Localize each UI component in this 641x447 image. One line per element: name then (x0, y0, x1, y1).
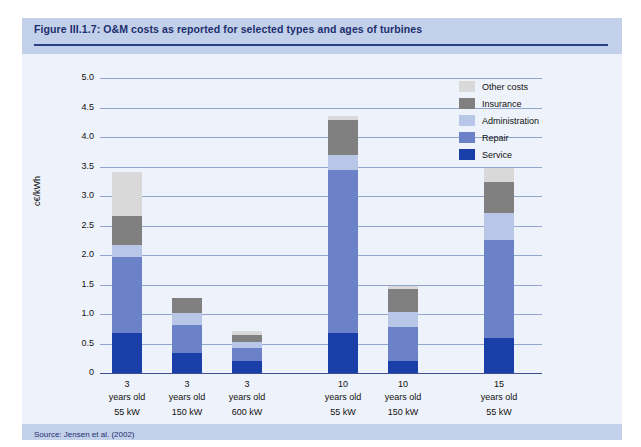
gridline (100, 226, 542, 227)
x-axis-line (100, 373, 542, 374)
x-axis-category-label: 3years old600 kW (209, 378, 285, 419)
x-label-age-unit: years old (365, 391, 441, 404)
y-axis-tick-label: 4.5 (60, 102, 94, 112)
x-label-power: 55 kW (461, 406, 537, 419)
y-axis-tick-label: 5.0 (60, 72, 94, 82)
y-axis-tick-label: 3.5 (60, 161, 94, 171)
x-axis-category-label: 15years old55 kW (461, 378, 537, 419)
legend-item: Insurance (459, 95, 609, 112)
y-axis-tick-label: 4.0 (60, 131, 94, 141)
legend-label: Administration (482, 116, 539, 126)
bar-segment-administration (388, 312, 418, 327)
title-underline-rule (34, 44, 608, 46)
source-note: Source: Jensen et al. (2002) (34, 430, 135, 439)
figure-page: Figure III.1.7: O&M costs as reported fo… (0, 0, 641, 447)
stacked-bar (112, 172, 142, 373)
bar-segment-service (484, 338, 514, 373)
gridline (100, 314, 542, 315)
bar-segment-repair (484, 240, 514, 337)
y-axis-tick-label: 0.5 (60, 338, 94, 348)
gridline (100, 255, 542, 256)
bar-segment-service (112, 333, 142, 373)
bar-segment-service (388, 361, 418, 373)
bar-segment-other-costs (484, 168, 514, 183)
bar-segment-repair (388, 327, 418, 361)
legend-swatch-icon (459, 81, 475, 92)
bar-segment-service (328, 333, 358, 373)
stacked-bar (328, 116, 358, 373)
legend-swatch-icon (459, 132, 475, 143)
bar-segment-administration (484, 213, 514, 241)
legend-item: Repair (459, 129, 609, 146)
bar-segment-administration (328, 155, 358, 170)
x-label-age-unit: years old (209, 391, 285, 404)
gridline (100, 167, 542, 168)
x-label-power: 150 kW (365, 406, 441, 419)
bar-segment-service (232, 361, 262, 373)
gridline (100, 344, 542, 345)
stacked-bar (484, 168, 514, 373)
legend-label: Repair (482, 133, 509, 143)
legend-swatch-icon (459, 115, 475, 126)
bar-segment-insurance (328, 120, 358, 155)
bar-segment-insurance (172, 298, 202, 314)
stacked-bar (388, 286, 418, 373)
stacked-bar (232, 331, 262, 373)
bar-segment-repair (172, 325, 202, 353)
legend-label: Insurance (482, 99, 522, 109)
bar-segment-repair (112, 257, 142, 334)
x-label-age: 10 (365, 378, 441, 391)
x-label-age: 3 (209, 378, 285, 391)
y-axis-tick-label: 2.5 (60, 220, 94, 230)
x-label-age-unit: years old (461, 391, 537, 404)
gridline (100, 196, 542, 197)
legend-label: Other costs (482, 82, 528, 92)
y-axis-tick-label: 2.0 (60, 249, 94, 259)
y-axis-tick-label: 1.0 (60, 308, 94, 318)
chart-panel: c€/kWh 00.51.01.52.02.53.03.54.04.55.03y… (22, 54, 622, 426)
bar-segment-repair (328, 170, 358, 333)
bar-segment-insurance (232, 335, 262, 343)
legend-item: Administration (459, 112, 609, 129)
x-label-age: 15 (461, 378, 537, 391)
gridline (100, 285, 542, 286)
bar-segment-administration (172, 313, 202, 325)
y-axis-tick-label: 0 (60, 367, 94, 377)
bar-segment-other-costs (112, 172, 142, 215)
y-axis-tick-label: 1.5 (60, 279, 94, 289)
bar-segment-administration (112, 245, 142, 257)
legend-label: Service (482, 150, 512, 160)
legend-item: Service (459, 146, 609, 163)
legend-swatch-icon (459, 149, 475, 160)
legend-swatch-icon (459, 98, 475, 109)
chart-legend: Other costsInsuranceAdministrationRepair… (459, 78, 609, 163)
bar-segment-service (172, 353, 202, 373)
bar-segment-insurance (112, 216, 142, 246)
figure-title: Figure III.1.7: O&M costs as reported fo… (34, 23, 422, 35)
x-label-power: 600 kW (209, 406, 285, 419)
stacked-bar (172, 298, 202, 373)
legend-item: Other costs (459, 78, 609, 95)
y-axis-tick-label: 3.0 (60, 190, 94, 200)
bar-segment-insurance (388, 289, 418, 313)
bar-segment-insurance (484, 182, 514, 212)
x-axis-category-label: 10years old150 kW (365, 378, 441, 419)
bar-segment-repair (232, 348, 262, 361)
figure-title-band: Figure III.1.7: O&M costs as reported fo… (22, 18, 622, 54)
y-axis-label: c€/kWh (32, 176, 42, 206)
